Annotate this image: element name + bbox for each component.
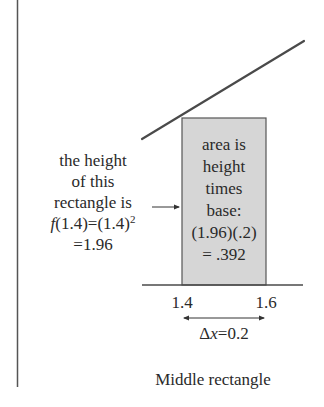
height-annotation-line-1: the height: [28, 150, 158, 171]
area-annotation-line-2: height: [182, 156, 266, 178]
area-annotation-line-1: area is: [182, 134, 266, 156]
height-annotation-line-3: rectangle is: [28, 192, 158, 213]
height-annotation-line-2: of this: [28, 171, 158, 192]
formula-exponent: 2: [130, 213, 136, 225]
delta-x-label: Δx=0.2: [190, 323, 258, 344]
area-annotation-line-6: = .392: [182, 244, 266, 266]
area-annotation-line-4: base:: [182, 200, 266, 222]
area-annotation-line-3: times: [182, 178, 266, 200]
delta-variable: x: [210, 324, 218, 343]
tick-label-left: 1.4: [166, 292, 198, 313]
height-annotation-value: =1.96: [28, 234, 158, 255]
delta-value: =0.2: [218, 324, 249, 343]
height-annotation: the height of this rectangle is f(1.4)=(…: [28, 150, 158, 255]
formula-body: (1.4)=(1.4): [55, 214, 130, 233]
height-annotation-formula: f(1.4)=(1.4)2: [28, 213, 158, 234]
delta-symbol: Δ: [199, 324, 210, 343]
area-annotation: area is height times base: (1.96)(.2) = …: [182, 134, 266, 266]
tick-label-right: 1.6: [250, 292, 282, 313]
area-annotation-line-5: (1.96)(.2): [182, 222, 266, 244]
figure-caption: Middle rectangle: [128, 369, 298, 390]
